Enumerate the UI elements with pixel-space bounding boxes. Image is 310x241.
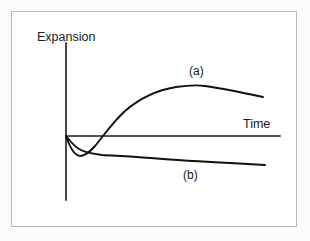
- x-axis-label: Time: [243, 118, 270, 131]
- series-label-b: (b): [183, 169, 198, 181]
- series-label-a: (a): [189, 65, 204, 77]
- series-line-a: [66, 85, 263, 156]
- y-axis-label: Expansion: [37, 31, 95, 44]
- chart-figure: Expansion Time (a) (b): [0, 0, 310, 241]
- series-line-b: [66, 136, 265, 165]
